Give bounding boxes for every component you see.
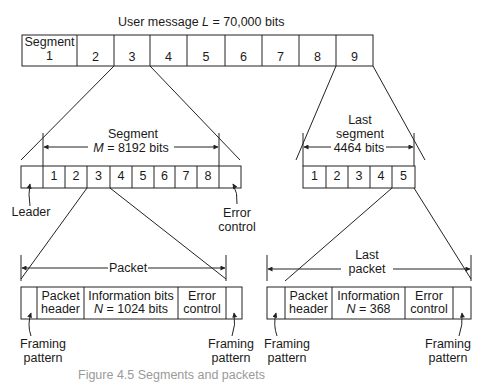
leader-label: Leader: [4, 205, 58, 219]
segment-9: 9: [336, 35, 373, 66]
last-framing-label-left-2: pattern: [262, 351, 312, 365]
segment-dim-label: Segment: [108, 127, 154, 141]
framing-label-right-2: pattern: [206, 351, 256, 365]
error-label-2: control: [212, 220, 262, 234]
last-segment-label-2: segment: [330, 127, 390, 141]
packet-dim-label: Packet: [108, 261, 148, 275]
segment-1: Segment1: [22, 35, 77, 66]
segment-8: 8: [299, 35, 336, 66]
last-segment-label-1: Last: [340, 113, 380, 127]
last-framing-label-right-2: pattern: [422, 351, 474, 365]
last-framing-label-right-1: Framing: [422, 337, 474, 351]
segment-6: 6: [225, 35, 262, 66]
segment-3: 3: [114, 35, 150, 66]
segment-packet-2: 2: [65, 166, 87, 188]
last-segment-packet-5: 5: [392, 166, 415, 188]
segment-packet-8: 8: [197, 166, 219, 188]
last-packet-label-1: Last: [347, 248, 387, 262]
segment-packet-6: 6: [154, 166, 175, 188]
segment-packet-3: 3: [87, 166, 110, 188]
packet-error-control-field: Errorcontrol: [178, 287, 226, 319]
framing-label-left-1: Framing: [18, 337, 68, 351]
segment-size-label: M = 8192 bits: [90, 141, 172, 155]
segment-packet-1: 1: [43, 166, 65, 188]
segment-5: 5: [187, 35, 225, 66]
framing-label-left-2: pattern: [18, 351, 68, 365]
framing-label-right-1: Framing: [206, 337, 256, 351]
last-segment-packet-2: 2: [326, 166, 348, 188]
segment-2: 2: [77, 35, 114, 66]
segment-packet-7: 7: [175, 166, 197, 188]
segment-7: 7: [262, 35, 299, 66]
last-framing-label-left-1: Framing: [262, 337, 312, 351]
user-message-title: User message L = 70,000 bits: [118, 15, 284, 29]
packet-information-field: Information bitsN = 1024 bits: [84, 287, 178, 319]
error-label-1: Error: [216, 206, 258, 220]
segment-packet-4: 4: [110, 166, 132, 188]
figure-caption: Figure 4.5 Segments and packets: [78, 368, 265, 382]
packet-header-field: Packetheader: [37, 287, 84, 319]
segment-4: 4: [150, 35, 187, 66]
last-packet-error-control-field: Errorcontrol: [405, 287, 453, 319]
last-segment-packet-1: 1: [303, 166, 326, 188]
last-segment-packet-3: 3: [348, 166, 370, 188]
segment-packet-5: 5: [132, 166, 154, 188]
last-segment-packet-4: 4: [370, 166, 392, 188]
last-packet-header-field: Packetheader: [285, 287, 332, 319]
last-segment-size-label: 4464 bits: [330, 141, 388, 155]
last-packet-label-2: packet: [341, 262, 393, 276]
last-packet-information-field: InformationN = 368: [332, 287, 405, 319]
